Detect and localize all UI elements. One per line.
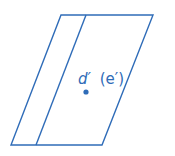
projection-diagram: d′ (e′) [0,0,175,156]
label-d-prime: d′ [78,70,92,88]
label-e-prime: (e′) [100,70,124,88]
point-d-prime [83,89,88,94]
point-label: d′ (e′) [78,70,124,88]
